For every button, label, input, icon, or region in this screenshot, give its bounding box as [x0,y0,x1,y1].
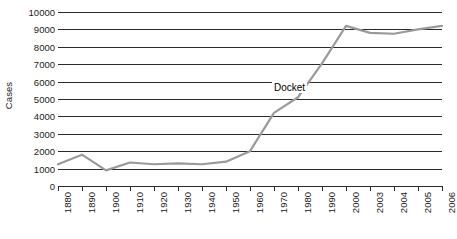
x-axis-tick [322,186,323,191]
x-axis-tick [106,186,107,191]
y-axis-tick-label: 5000 [34,94,55,105]
x-axis-tick [274,186,275,191]
x-axis-ticks [58,186,442,191]
x-axis-tick-label: 1980 [302,192,313,213]
x-axis-tick [58,186,59,191]
y-axis-title-label: Cases [4,81,15,108]
x-axis-tick-label: 2006 [446,192,457,213]
x-axis-tick-labels: 1880189019001910192019301940195019601970… [58,192,442,238]
y-axis-tick-label: 6000 [34,76,55,87]
x-axis-tick [298,186,299,191]
y-axis-tick-label: 10000 [29,7,55,18]
x-axis-tick-label: 1900 [110,192,121,213]
x-axis-tick-label: 2004 [398,192,409,213]
x-axis-tick-label: 1930 [182,192,193,213]
x-axis-tick [394,186,395,191]
plot-area [58,12,442,186]
x-axis-tick [82,186,83,191]
series-path-docket [58,26,442,170]
y-axis-tick-labels: 0100020003000400050006000700080009000100… [18,0,58,195]
y-axis-tick-label: 3000 [34,128,55,139]
x-axis-tick-label: 1950 [230,192,241,213]
y-axis-tick-label: 7000 [34,59,55,70]
x-axis-tick [370,186,371,191]
x-axis-tick [418,186,419,191]
series-line-docket [58,12,442,186]
x-axis-tick [346,186,347,191]
y-axis-tick-label: 4000 [34,111,55,122]
x-axis-tick-label: 1970 [278,192,289,213]
x-axis-tick-label: 2003 [374,192,385,213]
y-axis-tick-label: 0 [50,181,55,192]
x-axis-tick [202,186,203,191]
x-axis-tick-label: 1910 [134,192,145,213]
x-axis-tick [154,186,155,191]
x-axis-tick-label: 1920 [158,192,169,213]
x-axis-tick [178,186,179,191]
x-axis-tick [130,186,131,191]
series-annotation-label: Docket [272,82,307,93]
y-axis-tick-label: 8000 [34,41,55,52]
x-axis-tick [226,186,227,191]
x-axis-tick [442,186,443,191]
y-axis-title: Cases [0,0,18,190]
x-axis-tick-label: 2000 [350,192,361,213]
x-axis-tick-label: 1990 [326,192,337,213]
y-axis-tick-label: 2000 [34,146,55,157]
x-axis-tick-label: 1960 [254,192,265,213]
x-axis-tick [250,186,251,191]
x-axis-tick-label: 1890 [86,192,97,213]
x-axis-tick-label: 1880 [62,192,73,213]
y-axis-tick-label: 9000 [34,24,55,35]
y-axis-tick-label: 1000 [34,163,55,174]
x-axis-tick-label: 2005 [422,192,433,213]
x-axis-tick-label: 1940 [206,192,217,213]
